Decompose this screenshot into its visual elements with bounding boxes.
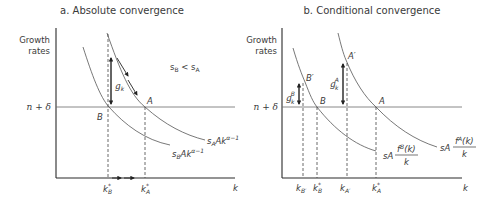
svg-text:k: k <box>462 149 468 159</box>
point-B: B <box>97 112 103 122</box>
point-A-prime: A′ <box>347 51 356 61</box>
point-B-b: B <box>320 96 326 106</box>
n-delta-label: n + δ <box>27 102 51 112</box>
y-axis-label-growth: Growth <box>19 35 50 45</box>
panel-absolute-convergence: a. Absolute convergence Growth rates n +… <box>19 5 239 195</box>
svg-text:fA(k): fA(k) <box>455 135 474 146</box>
tick-kBprime: kB′ <box>296 183 307 194</box>
gkB-label: gBk <box>286 90 295 105</box>
panel-conditional-convergence: b. Conditional convergence Growth rates … <box>246 5 476 194</box>
curve-fA-label: sA fA(k) k <box>440 135 476 159</box>
x-axis-label: k <box>233 183 239 193</box>
point-A-b: A <box>378 96 385 106</box>
curve-fB-label: sA fB(k) k <box>383 143 418 167</box>
curve-fB <box>293 48 376 151</box>
convergence-diagram: a. Absolute convergence Growth rates n +… <box>0 0 489 200</box>
n-delta-label-b: n + δ <box>254 102 278 112</box>
gk-label: gk <box>115 81 125 92</box>
tick-kA-star-b: k*A <box>372 181 381 194</box>
y-axis-label-growth-b: Growth <box>246 35 277 45</box>
point-B-prime: B′ <box>306 73 314 83</box>
curve-sB <box>83 47 170 145</box>
panel-a-title: a. Absolute convergence <box>60 5 184 16</box>
curve-sB-label: sBAkα−1 <box>172 147 204 160</box>
svg-text:sA: sA <box>440 143 450 153</box>
gkA-label: gAk <box>330 76 339 91</box>
tick-kB-star-b: k*B <box>313 181 322 194</box>
x-axis-label-b: k <box>463 183 469 193</box>
curve-sA-label: sAAkα−1 <box>207 134 239 147</box>
tick-kAprime: kA′ <box>340 183 351 194</box>
svg-text:fB(k): fB(k) <box>397 143 416 154</box>
condition-sB-lt-sA: sB < sA <box>170 62 201 73</box>
svg-text:sA: sA <box>383 151 393 161</box>
tick-kB-star: k*B <box>103 182 112 195</box>
panel-b-title: b. Conditional convergence <box>304 5 441 16</box>
svg-text:k: k <box>404 157 410 167</box>
tick-kA-star: k*A <box>141 182 150 195</box>
point-A: A <box>146 96 153 106</box>
y-axis-label-rates: rates <box>28 46 50 56</box>
y-axis-label-rates-b: rates <box>255 46 277 56</box>
